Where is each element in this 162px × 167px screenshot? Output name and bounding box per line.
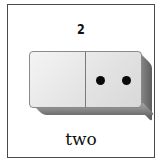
number-word-label: two: [1, 131, 147, 148]
domino-right-half: [86, 52, 141, 107]
pip-icon: [122, 76, 131, 85]
number-flashcard: 2 two: [7, 4, 155, 158]
domino-face: [29, 51, 142, 108]
domino-illustration: [21, 46, 153, 124]
domino-left-half-blank: [30, 52, 86, 107]
pip-icon: [96, 76, 105, 85]
number-word-text: two: [65, 131, 97, 148]
numeral-label: 2: [23, 22, 140, 36]
